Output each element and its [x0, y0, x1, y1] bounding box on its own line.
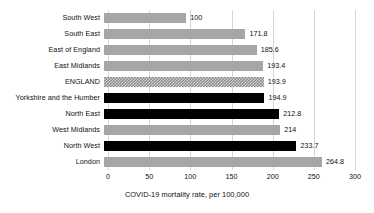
bar[interactable]	[104, 61, 263, 71]
chart-row: West Midlands214	[0, 122, 374, 138]
chart-row: Yorkshire and the Humber194.9	[0, 90, 374, 106]
x-tick-label: 100	[184, 173, 196, 180]
x-tick-label: 300	[349, 173, 361, 180]
bar[interactable]	[104, 141, 296, 151]
chart-row: ENGLAND193.9	[0, 74, 374, 90]
bar-track: 233.7	[104, 138, 370, 154]
chart-row: South West100	[0, 10, 374, 26]
x-tick-label: 150	[226, 173, 238, 180]
bar-value-label: 100	[190, 14, 202, 21]
chart-row: East Midlands193.4	[0, 58, 374, 74]
bar-value-label: 193.9	[268, 78, 286, 85]
category-label: Yorkshire and the Humber	[0, 94, 104, 101]
bar-value-label: 193.4	[267, 62, 285, 69]
category-label: London	[0, 158, 104, 165]
bar[interactable]	[104, 109, 279, 119]
category-label: East Midlands	[0, 62, 104, 69]
category-label: South East	[0, 30, 104, 37]
chart-row: East of England185.6	[0, 42, 374, 58]
bar-value-label: 212.8	[283, 110, 301, 117]
bar[interactable]	[104, 125, 280, 135]
x-tick-label: 0	[106, 173, 110, 180]
bar-track: 214	[104, 122, 370, 138]
bar[interactable]	[104, 157, 322, 167]
bar[interactable]	[104, 29, 245, 39]
chart-row: North East212.8	[0, 106, 374, 122]
bar-value-label: 214	[284, 126, 296, 133]
category-label: ENGLAND	[0, 78, 104, 85]
x-axis-title: COVID-19 mortality rate, per 100,000	[0, 191, 374, 198]
bar[interactable]	[104, 77, 264, 87]
bar[interactable]	[104, 45, 257, 55]
bar-value-label: 194.9	[268, 94, 286, 101]
category-label: North West	[0, 142, 104, 149]
x-tick-label: 200	[267, 173, 279, 180]
bar-value-label: 171.8	[249, 30, 267, 37]
category-label: East of England	[0, 46, 104, 53]
bar-value-label: 233.7	[300, 142, 318, 149]
bar[interactable]	[104, 93, 264, 103]
bar-value-label: 264.8	[326, 158, 344, 165]
chart-plot-rows: South West100South East171.8East of Engl…	[0, 10, 374, 170]
category-label: South West	[0, 14, 104, 21]
bar-track: 193.4	[104, 58, 370, 74]
x-tick-label: 50	[145, 173, 153, 180]
x-axis: 050100150200250300	[108, 170, 355, 186]
bar-track: 185.6	[104, 42, 370, 58]
category-label: West Midlands	[0, 126, 104, 133]
category-label: North East	[0, 110, 104, 117]
chart-row: South East171.8	[0, 26, 374, 42]
x-tick-label: 250	[308, 173, 320, 180]
bar-track: 100	[104, 10, 370, 26]
chart-row: London264.8	[0, 154, 374, 170]
covid-mortality-bar-chart: South West100South East171.8East of Engl…	[0, 0, 374, 213]
bar-track: 194.9	[104, 90, 370, 106]
bar-track: 193.9	[104, 74, 370, 90]
chart-row: North West233.7	[0, 138, 374, 154]
bar-value-label: 185.6	[261, 46, 279, 53]
bar[interactable]	[104, 13, 186, 23]
bar-track: 264.8	[104, 154, 370, 170]
bar-track: 212.8	[104, 106, 370, 122]
bar-track: 171.8	[104, 26, 370, 42]
